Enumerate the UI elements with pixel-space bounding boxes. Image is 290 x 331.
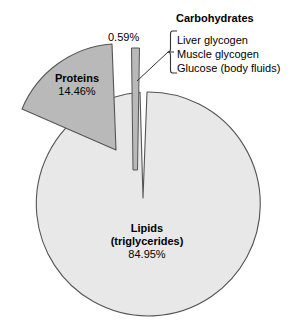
- carbohydrates-component-list: Liver glycogen Muscle glycogen Glucose (…: [177, 33, 280, 75]
- lipids-label-subname: (triglycerides): [86, 235, 208, 248]
- proteins-label: Proteins 14.46%: [34, 72, 120, 98]
- lipids-label: Lipids (triglycerides) 84.95%: [86, 222, 208, 261]
- pie-chart: Proteins 14.46% Lipids (triglycerides) 8…: [0, 0, 290, 331]
- proteins-label-value: 14.46%: [34, 85, 120, 98]
- proteins-label-name: Proteins: [34, 72, 120, 85]
- carbohydrates-label-name: Carbohydrates: [176, 12, 254, 24]
- carbohydrates-component-item: Liver glycogen: [177, 33, 280, 47]
- pie-slice-carbohydrates[interactable]: [132, 48, 140, 170]
- carbohydrates-label-value: 0.59%: [108, 31, 156, 44]
- lipids-label-name: Lipids: [86, 222, 208, 235]
- carbohydrates-component-item: Glucose (body fluids): [177, 61, 280, 75]
- carbohydrates-component-item: Muscle glycogen: [177, 47, 280, 61]
- carbohydrates-leader-line: [137, 52, 174, 81]
- lipids-label-value: 84.95%: [86, 248, 208, 261]
